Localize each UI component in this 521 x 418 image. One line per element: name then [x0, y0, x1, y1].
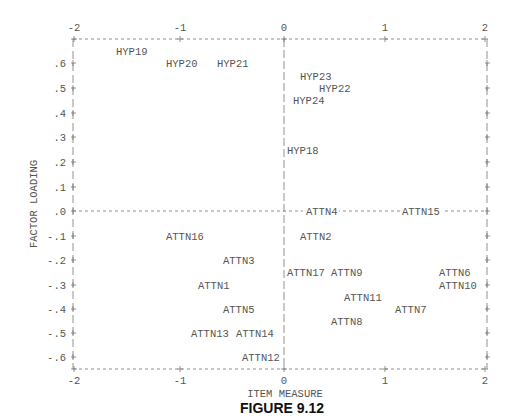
- point-label: ATTN4: [306, 206, 338, 218]
- y-tick: -.1: [47, 231, 66, 243]
- point-label: ATTN9: [331, 267, 363, 279]
- y-tick: .4: [53, 108, 66, 120]
- point-label: ATTN15: [402, 206, 440, 218]
- point-label: ATTN11: [344, 292, 382, 304]
- point-label: HYP19: [116, 46, 148, 58]
- point-label: ATTN10: [439, 280, 477, 292]
- y-tick: .3: [53, 132, 66, 144]
- point-label: ATTN14: [236, 328, 274, 340]
- point-label: ATTN7: [395, 304, 427, 316]
- x-tick-bottom: 1: [382, 375, 388, 387]
- point-label: ATTN6: [439, 267, 471, 279]
- x-axis-title: ITEM MEASURE: [247, 388, 323, 400]
- y-tick: .5: [53, 83, 66, 95]
- point-label: HYP21: [217, 58, 249, 70]
- x-tick-top: 1: [382, 22, 388, 34]
- y-tick: -.6: [47, 352, 66, 364]
- y-tick: -.3: [47, 280, 66, 292]
- point-label: ATTN17: [287, 267, 325, 279]
- point-label: ATTN3: [223, 255, 255, 267]
- y-tick: .6: [53, 58, 66, 70]
- point-label: HYP22: [319, 83, 351, 95]
- y-tick: .1: [53, 182, 66, 194]
- y-tick: .2: [53, 157, 66, 169]
- y-tick: -.4: [47, 304, 66, 316]
- x-tick-bottom: -2: [68, 375, 81, 387]
- x-tick-top: -1: [174, 22, 187, 34]
- figure-caption: FIGURE 9.12: [240, 400, 324, 416]
- x-tick-top: 0: [281, 22, 287, 34]
- point-label: ATTN16: [166, 231, 204, 243]
- x-axis-bottom-labels: -2 -1 0 1 2: [68, 375, 488, 387]
- point-label: HYP23: [300, 71, 332, 83]
- y-tick: .0: [53, 206, 66, 218]
- y-tick: -.2: [47, 255, 66, 267]
- point-label: HYP24: [293, 95, 325, 107]
- y-axis-labels: .6 .5 .4 .3 .2 .1 .0 -.1 -.2 -.3 -.4 -.5…: [47, 58, 66, 364]
- x-axis-top-labels: -2 -1 0 1 2: [68, 22, 488, 34]
- tick-marks: [71, 36, 490, 372]
- plot-frame: [73, 39, 487, 369]
- point-label: ATTN2: [300, 231, 332, 243]
- x-tick-top: -2: [68, 22, 81, 34]
- point-label: HYP20: [166, 58, 198, 70]
- factor-loading-scatter-plot: -2 -1 0 1 2 .6 .5 .4 .3 .2 .1 .0 -.1 -.2…: [0, 0, 521, 418]
- point-label: ATTN13: [191, 328, 229, 340]
- point-label: HYP18: [287, 145, 319, 157]
- data-labels: HYP19 HYP20 HYP21 HYP23 HYP22 HYP24 HYP1…: [116, 46, 477, 364]
- point-label: ATTN1: [198, 280, 230, 292]
- y-axis-title: FACTOR LOADING: [28, 160, 40, 248]
- y-tick: -.5: [47, 328, 66, 340]
- point-label: ATTN12: [242, 352, 280, 364]
- point-label: ATTN5: [223, 304, 255, 316]
- x-tick-bottom: -1: [174, 375, 187, 387]
- point-label: ATTN8: [331, 316, 363, 328]
- x-tick-top: 2: [482, 22, 488, 34]
- x-tick-bottom: 2: [482, 375, 488, 387]
- x-tick-bottom: 0: [281, 375, 287, 387]
